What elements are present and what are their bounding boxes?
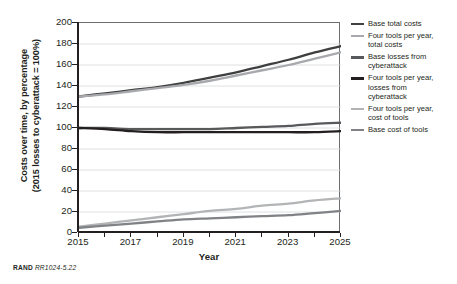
series-line-5 [79,211,341,228]
y-tick-label: 120 [32,101,72,111]
legend-swatch-icon [351,77,364,79]
x-tick-label: 2019 [163,236,203,247]
x-tick-mark [209,233,210,237]
x-tick-mark [261,233,262,237]
y-tick-label: 0 [32,227,72,237]
legend-label: Four tools per year, total costs [368,31,433,49]
series-line-0 [79,46,341,96]
legend-item[interactable]: Base losses from cyberattack [351,52,457,70]
legend-label: Four tools per year, cost of tools [368,104,433,122]
x-tick-mark [314,233,315,237]
source-note: RAND RR1024-5.22 [13,264,76,271]
legend-item[interactable]: Four tools per year, cost of tools [351,104,457,122]
y-tick-label: 60 [32,164,72,174]
source-note-id: RR1024-5.22 [35,264,76,271]
x-tick-mark [78,233,79,237]
figure-container: Costs over time, by percentage (2015 los… [0,0,457,284]
legend-item[interactable]: Base cost of tools [351,125,457,134]
y-axis-line [77,22,79,232]
legend-label: Base losses from cyberattack [368,52,426,70]
line-chart-svg [79,23,341,233]
x-tick-mark [130,233,131,237]
legend-item[interactable]: Four tools per year, losses from cyberat… [351,73,457,100]
plot-area [78,22,340,232]
legend-swatch-icon [351,35,364,37]
legend-item[interactable]: Four tools per year, total costs [351,31,457,49]
chart-legend: Base total costsFour tools per year, tot… [351,19,457,137]
x-tick-label: 2017 [110,236,150,247]
legend-swatch-icon [351,56,364,58]
x-tick-label: 2023 [268,236,308,247]
legend-label: Four tools per year, losses from cyberat… [368,73,433,100]
y-tick-mark [72,232,77,233]
y-tick-label: 40 [32,185,72,195]
x-tick-label: 2025 [320,236,360,247]
y-tick-label: 140 [32,80,72,90]
source-note-prefix: RAND [13,264,33,271]
series-line-4 [79,198,341,226]
legend-label: Base cost of tools [368,125,428,134]
y-tick-label: 160 [32,59,72,69]
y-tick-label: 180 [32,38,72,48]
legend-swatch-icon [351,23,364,25]
x-tick-mark [340,233,341,237]
x-tick-mark [235,233,236,237]
x-tick-mark [183,233,184,237]
x-axis-title: Year [78,251,340,262]
x-tick-label: 2021 [215,236,255,247]
y-tick-label: 20 [32,206,72,216]
legend-item[interactable]: Base total costs [351,19,457,28]
x-tick-mark [157,233,158,237]
y-axis-title-line1: Costs over time, by percentage [19,49,29,182]
series-line-1 [79,52,341,96]
x-tick-mark [104,233,105,237]
y-tick-label: 100 [32,122,72,132]
legend-label: Base total costs [368,19,422,28]
series-lines [79,46,341,228]
x-tick-label: 2015 [58,236,98,247]
x-tick-mark [288,233,289,237]
legend-swatch-icon [351,108,364,110]
y-tick-label: 200 [32,17,72,27]
y-tick-label: 80 [32,143,72,153]
legend-swatch-icon [351,129,364,131]
